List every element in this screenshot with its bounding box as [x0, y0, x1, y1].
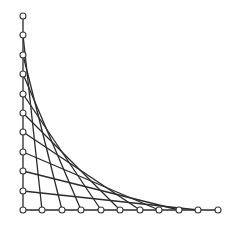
horizontal-peg-circle-icon: [156, 207, 162, 213]
horizontal-peg-circle-icon: [176, 207, 182, 213]
string-art-diagram: [0, 0, 239, 226]
vertical-peg-circle-icon: [20, 188, 26, 194]
vertical-peg-circle-icon: [20, 149, 26, 155]
vertical-peg-circle-icon: [20, 91, 26, 97]
string-line: [23, 191, 198, 210]
string-line: [23, 171, 179, 210]
vertical-peg-circle-icon: [20, 13, 26, 19]
horizontal-peg-circle-icon: [137, 207, 143, 213]
horizontal-peg-circle-icon: [195, 207, 201, 213]
horizontal-peg-circle-icon: [98, 207, 104, 213]
string-line: [23, 113, 120, 210]
string-lines: [23, 35, 198, 210]
string-line: [23, 152, 159, 210]
vertical-peg-circle-icon: [20, 110, 26, 116]
horizontal-peg-circle-icon: [78, 207, 84, 213]
vertical-peg-circle-icon: [20, 168, 26, 174]
vertical-peg-circle-icon: [20, 207, 26, 213]
horizontal-peg-circle-icon: [117, 207, 123, 213]
vertical-peg-circle-icon: [20, 52, 26, 58]
vertical-peg-circle-icon: [20, 129, 26, 135]
axes: [23, 16, 218, 210]
vertical-peg-circle-icon: [20, 71, 26, 77]
pegs: [20, 13, 221, 213]
horizontal-peg-circle-icon: [59, 207, 65, 213]
horizontal-peg-circle-icon: [39, 207, 45, 213]
vertical-peg-circle-icon: [20, 32, 26, 38]
horizontal-peg-circle-icon: [215, 207, 221, 213]
